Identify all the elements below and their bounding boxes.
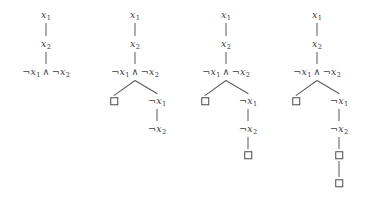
tree-node-label: x1: [312, 10, 322, 20]
tree-node-label: ¬x2: [239, 124, 257, 134]
tree-edge: [339, 137, 340, 149]
tree-node-label: ¬x1∧¬x2: [202, 67, 250, 77]
tree-edge: [46, 23, 47, 36]
proof-tree-figure: x1x2¬x1∧¬x2x1x2¬x1∧¬x2¬x1¬x2x1x2¬x1∧¬x2¬…: [0, 0, 372, 205]
tree-edge: [46, 52, 47, 64]
tree-edge: [226, 52, 227, 64]
tree-edge: [317, 23, 318, 36]
empty-clause-box: [335, 179, 343, 187]
tree-node-label: ¬x1∧¬x2: [111, 67, 159, 77]
tree-edge: [248, 137, 249, 149]
tree-edge: [339, 161, 340, 177]
tree-edge: [205, 80, 227, 96]
empty-clause-box: [201, 97, 209, 105]
tree-node-label: x2: [41, 39, 51, 49]
tree-edge: [135, 23, 136, 36]
tree-edge: [296, 80, 318, 96]
tree-node-label: ¬x2: [330, 124, 348, 134]
empty-clause-box: [244, 151, 252, 159]
tree-node-label: ¬x1: [330, 96, 348, 106]
tree-edge: [226, 23, 227, 36]
tree-edge: [226, 80, 249, 94]
tree-node-label: ¬x1∧¬x2: [22, 67, 70, 77]
tree-edge: [248, 109, 249, 121]
tree-node-label: x2: [312, 39, 322, 49]
tree-node-label: ¬x1: [148, 96, 166, 106]
tree-node-label: x1: [221, 10, 231, 20]
tree-node-label: x1: [130, 10, 140, 20]
tree-edge: [317, 80, 340, 94]
tree-edge: [317, 52, 318, 64]
tree-edge: [135, 80, 158, 94]
tree-edge: [157, 109, 158, 121]
tree-node-label: x2: [221, 39, 231, 49]
tree-edge: [114, 80, 136, 96]
empty-clause-box: [110, 97, 118, 105]
tree-node-label: ¬x1∧¬x2: [293, 67, 341, 77]
empty-clause-box: [335, 151, 343, 159]
tree-edge: [339, 109, 340, 121]
tree-edge: [135, 52, 136, 64]
tree-node-label: x1: [41, 10, 51, 20]
empty-clause-box: [292, 97, 300, 105]
tree-node-label: x2: [130, 39, 140, 49]
tree-node-label: ¬x2: [148, 124, 166, 134]
tree-node-label: ¬x1: [239, 96, 257, 106]
